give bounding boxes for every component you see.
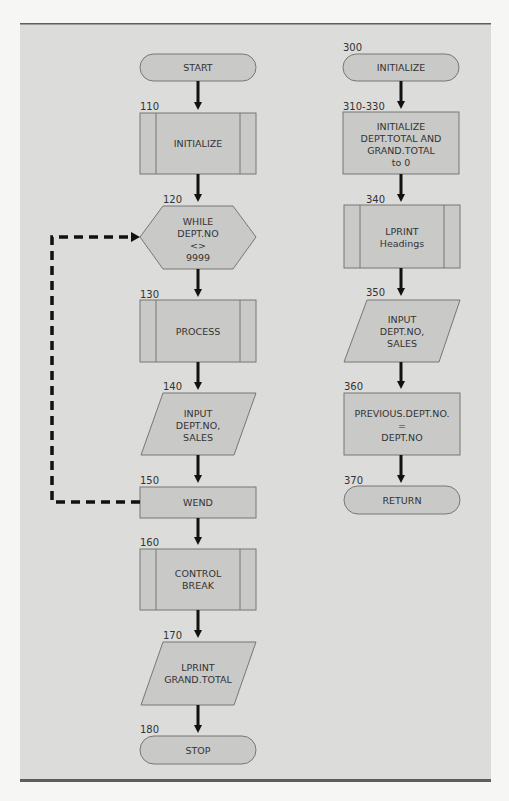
node-label: DEPT.NO	[381, 432, 422, 443]
node-lprint-headings: LPRINT Headings	[344, 205, 460, 268]
node-label: SALES	[387, 338, 417, 349]
step-label: 310-330	[343, 101, 385, 112]
node-label: PROCESS	[176, 326, 221, 337]
node-label: DEPT.NO	[177, 228, 218, 239]
step-label: 300	[343, 42, 362, 53]
node-label: <>	[190, 240, 206, 251]
node-while: WHILE DEPT.NO <> 9999	[140, 206, 256, 269]
node-label: DEPT.NO,	[380, 326, 424, 337]
node-init-totals: INITIALIZE DEPT.TOTAL AND GRAND.TOTAL to…	[343, 112, 459, 174]
node-label: GRAND.TOTAL	[367, 145, 435, 156]
node-label: STOP	[185, 745, 210, 756]
node-label: CONTROL	[175, 568, 222, 579]
node-label: INPUT	[184, 408, 213, 419]
node-sub-initialize: INITIALIZE	[343, 54, 459, 81]
node-label: WHILE	[183, 216, 214, 227]
node-start: START	[140, 54, 256, 81]
node-label: =	[398, 420, 406, 431]
step-label: 150	[140, 475, 159, 486]
step-label: 160	[140, 537, 159, 548]
node-return: RETURN	[344, 486, 460, 514]
node-label: PREVIOUS.DEPT.NO.	[354, 408, 449, 419]
node-control-break: CONTROL BREAK	[140, 549, 256, 610]
node-label: START	[183, 62, 213, 73]
node-label: WEND	[183, 497, 213, 508]
node-label: BREAK	[182, 580, 215, 591]
step-label: 140	[163, 381, 182, 392]
step-label: 350	[366, 287, 385, 298]
node-label: LPRINT	[181, 662, 215, 673]
step-label: 110	[140, 101, 159, 112]
node-initialize: INITIALIZE	[140, 113, 256, 174]
node-label: INITIALIZE	[174, 138, 222, 149]
node-label: INITIALIZE	[377, 62, 425, 73]
node-label: LPRINT	[385, 226, 419, 237]
step-label: 360	[344, 381, 363, 392]
node-label: DEPT.TOTAL AND	[361, 133, 442, 144]
step-label: 180	[140, 724, 159, 735]
node-label: to 0	[392, 157, 411, 168]
step-label: 120	[163, 194, 182, 205]
node-prev-dept: PREVIOUS.DEPT.NO. = DEPT.NO	[344, 393, 460, 455]
top-rule	[20, 23, 491, 25]
node-label: INPUT	[388, 314, 417, 325]
node-label: RETURN	[382, 495, 421, 506]
bottom-rule	[20, 779, 491, 782]
node-label: INITIALIZE	[377, 121, 425, 132]
node-label: SALES	[183, 432, 213, 443]
node-label: GRAND.TOTAL	[164, 674, 232, 685]
step-label: 370	[344, 475, 363, 486]
node-wend: WEND	[140, 487, 256, 518]
flowchart-diagram: START 110 INITIALIZE 120 WHILE DEPT.NO <…	[0, 0, 509, 801]
step-label: 340	[366, 194, 385, 205]
step-label: 170	[163, 630, 182, 641]
node-stop: STOP	[140, 736, 256, 764]
step-label: 130	[140, 289, 159, 300]
node-label: Headings	[380, 238, 425, 249]
node-label: 9999	[186, 252, 210, 263]
node-label: DEPT.NO,	[176, 420, 220, 431]
node-process: PROCESS	[140, 300, 256, 362]
